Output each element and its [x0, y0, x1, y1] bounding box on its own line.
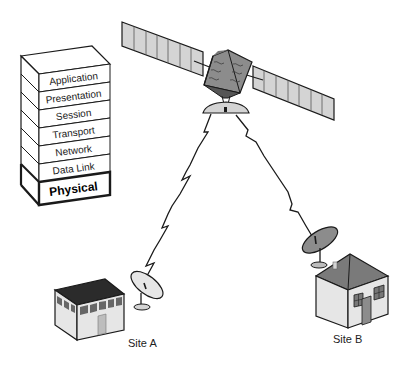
- site-a-dish-icon: [126, 266, 167, 310]
- osi-stack: Application Presentation Session Transpo…: [21, 46, 110, 205]
- site-b: Site B: [298, 222, 388, 345]
- office-building-icon: [55, 279, 124, 340]
- link-satellite-to-site-a: [146, 114, 211, 274]
- satellite-icon: [122, 22, 334, 120]
- right-solar-panel-icon: [240, 66, 334, 120]
- satellite-osi-diagram: Application Presentation Session Transpo…: [0, 0, 410, 367]
- site-b-label: Site B: [333, 333, 362, 345]
- site-a-label: Site A: [128, 337, 157, 349]
- left-solar-panel-icon: [122, 22, 212, 76]
- site-b-dish-icon: [298, 222, 341, 268]
- site-a: Site A: [55, 266, 168, 349]
- link-satellite-to-site-b: [236, 115, 312, 236]
